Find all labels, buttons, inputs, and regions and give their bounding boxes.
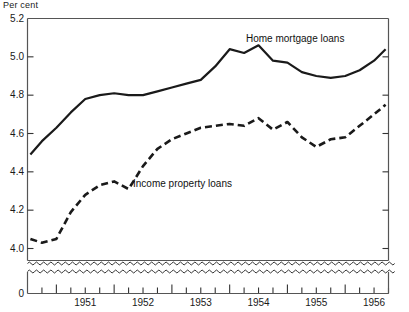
series-line — [30, 105, 385, 243]
x-axis-tick-label: 1956 — [354, 297, 394, 308]
y-axis-tick-label: 4.4 — [0, 166, 24, 177]
series-annotation-label: Income property loans — [133, 178, 232, 189]
data-series-group — [30, 45, 385, 242]
y-axis-tick-label: 5.0 — [0, 51, 24, 62]
x-axis-tick-label: 1952 — [123, 297, 163, 308]
y-axis-ticks — [28, 57, 389, 249]
series-annotation-label: Home mortgage loans — [246, 33, 344, 44]
plot-frame — [28, 19, 389, 294]
y-axis-tick-label: 5.2 — [0, 13, 24, 24]
x-axis-tick-label: 1951 — [65, 297, 105, 308]
x-axis-ticks — [42, 285, 389, 294]
y-axis-break-squiggle — [28, 262, 395, 294]
x-axis-tick-label: 1955 — [296, 297, 336, 308]
y-axis-tick-label: 4.0 — [0, 243, 24, 254]
x-axis-tick-label: 1953 — [181, 297, 221, 308]
chart-plot-area — [0, 0, 409, 312]
chart-container: Per cent 5.25.04.84.64.44.24.00 19511952… — [0, 0, 409, 312]
y-axis-tick-label: 4.6 — [0, 128, 24, 139]
y-axis-tick-label: 4.8 — [0, 89, 24, 100]
x-axis-tick-label: 1954 — [239, 297, 279, 308]
y-axis-zero-label: 0 — [0, 288, 24, 299]
y-axis-tick-label: 4.2 — [0, 204, 24, 215]
